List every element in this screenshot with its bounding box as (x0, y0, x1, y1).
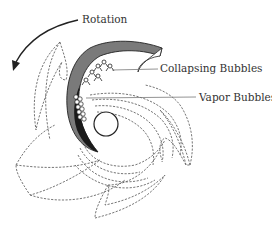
collapsing-bubbles-leader (112, 69, 158, 70)
collapsing-bubbles-label: Collapsing Bubbles (160, 62, 263, 74)
rotation-arrow (12, 20, 78, 71)
highlighted-impeller-blade (67, 41, 162, 152)
vapor-bubbles-label: Vapor Bubbles (198, 91, 272, 103)
rotation-label: Rotation (82, 13, 128, 25)
hub-eye-circle (94, 112, 118, 136)
vapor-bubbles-leader (86, 97, 196, 98)
impeller-cavitation-diagram: Rotation (0, 0, 272, 227)
